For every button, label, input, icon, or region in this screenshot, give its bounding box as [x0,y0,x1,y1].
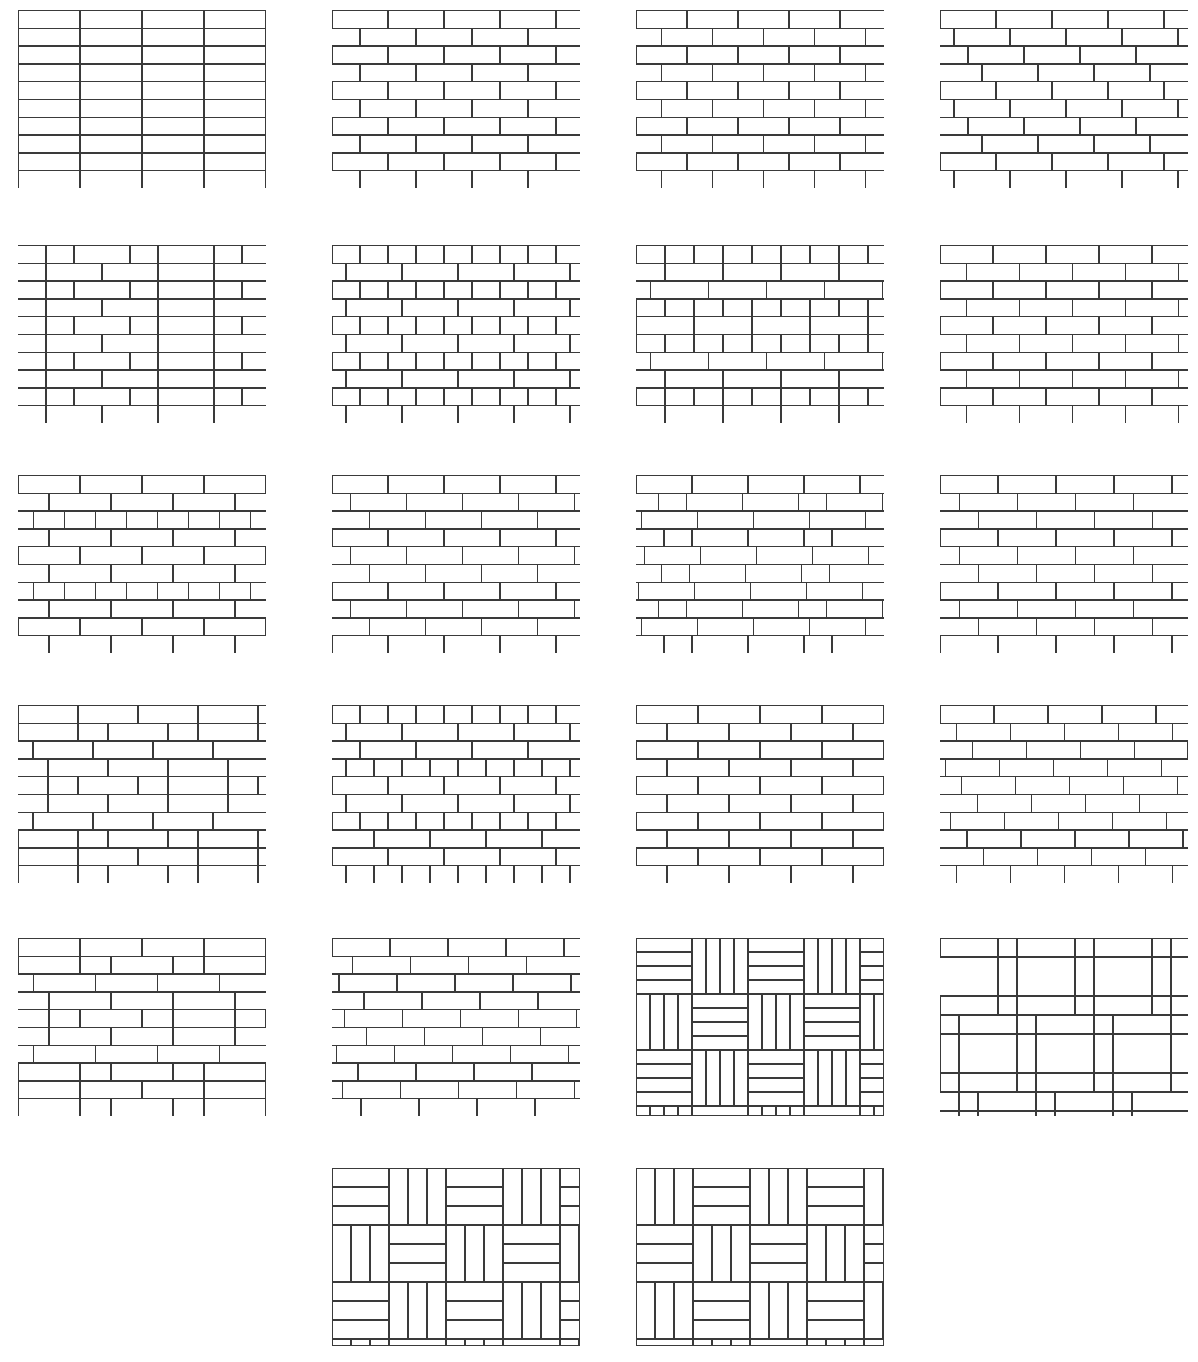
pattern-panel-english-garden-wall-bond [18,475,266,653]
pattern-drawing-stack-bond [18,10,266,188]
pattern-drawing-dutch-bond [332,705,580,883]
pattern-panel-herringbone-pattern [940,938,1188,1116]
pattern-panel-english-cross-bond [332,245,580,423]
pattern-drawing-running-bond-wide-unit [636,705,884,883]
pattern-drawing-running-bond-half-alt [940,245,1188,423]
pattern-panel-running-bond-wide-unit [636,705,884,883]
pattern-panel-dutch-bond [332,705,580,883]
pattern-drawing-common-bond [18,938,266,1116]
pattern-drawing-english-bond [636,245,884,423]
pattern-panel-running-bond-half [332,10,580,188]
pattern-drawing-flemish-garden-wall-bond [18,705,266,883]
pattern-panel-monk-bond [636,475,884,653]
pattern-panel-raking-stretcher-bond-quarter [940,10,1188,188]
pattern-plate [0,0,1198,1362]
pattern-drawing-pinwheel-basketweave-pattern [636,1168,884,1346]
pattern-panel-pinwheel-basketweave-pattern [636,1168,884,1346]
pattern-panel-running-bond-half-alt [940,245,1188,423]
pattern-drawing-running-bond-third [332,475,580,653]
pattern-drawing-double-basketweave-pattern [332,1168,580,1346]
pattern-drawing-running-bond-half [332,10,580,188]
pattern-panel-running-bond-third [332,475,580,653]
pattern-drawing-running-bond-half-narrow [636,10,884,188]
pattern-panel-double-basketweave-pattern [332,1168,580,1346]
pattern-drawing-irregular-running-bond [332,938,580,1116]
pattern-drawing-raking-bond-third [940,475,1188,653]
pattern-panel-basketweave-pattern [636,938,884,1116]
pattern-panel-english-bond [636,245,884,423]
pattern-panel-staggered-raking-bond [940,705,1188,883]
pattern-drawing-flemish-bond [18,245,266,423]
pattern-drawing-raking-stretcher-bond-quarter [940,10,1188,188]
pattern-panel-flemish-bond [18,245,266,423]
pattern-panel-flemish-garden-wall-bond [18,705,266,883]
pattern-drawing-herringbone-pattern [940,938,1188,1116]
pattern-panel-stack-bond [18,10,266,188]
pattern-drawing-monk-bond [636,475,884,653]
pattern-panel-common-bond [18,938,266,1116]
pattern-panel-running-bond-half-narrow [636,10,884,188]
pattern-drawing-staggered-raking-bond [940,705,1188,883]
pattern-panel-raking-bond-third [940,475,1188,653]
pattern-drawing-basketweave-pattern [636,938,884,1116]
pattern-panel-irregular-running-bond [332,938,580,1116]
pattern-drawing-english-garden-wall-bond [18,475,266,653]
pattern-drawing-english-cross-bond [332,245,580,423]
